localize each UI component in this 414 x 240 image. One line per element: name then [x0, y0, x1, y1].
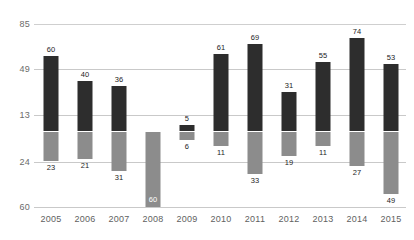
bar-negative-2006[interactable] [78, 132, 93, 159]
bar-negative-2010[interactable] [214, 132, 229, 146]
bar-group-2013: 55 11 2013 [306, 0, 340, 240]
bar-negative-2005[interactable] [44, 132, 59, 161]
bar-group-2011: 69 33 2011 [238, 0, 272, 240]
bar-group-2012: 31 19 2012 [272, 0, 306, 240]
bar-negative-2007[interactable] [112, 132, 127, 171]
bar-positive-2010[interactable] [214, 54, 229, 131]
bar-label-positive-2015: 53 [387, 53, 396, 62]
bar-positive-2009[interactable] [180, 125, 195, 131]
plot-area: 60 23 2005 40 21 2006 36 31 2007 60 2008 [34, 0, 406, 240]
bar-label-positive-2007: 36 [115, 75, 124, 84]
y-axis: 85 49 13 24 60 [0, 0, 30, 240]
bar-group-2014: 74 27 2014 [340, 0, 374, 240]
bar-label-positive-2011: 69 [251, 33, 260, 42]
bar-label-negative-2006: 21 [81, 161, 90, 170]
bar-label-positive-2005: 60 [47, 45, 56, 54]
bar-positive-2012[interactable] [282, 92, 297, 131]
bar-label-positive-2009: 5 [185, 114, 189, 123]
bar-positive-2014[interactable] [350, 38, 365, 131]
bar-label-negative-2015: 49 [387, 196, 396, 205]
bar-negative-2013[interactable] [316, 132, 331, 146]
y-tick-label-13: 13 [4, 110, 30, 120]
x-tick-label-2006: 2006 [74, 214, 95, 224]
bar-group-2015: 53 49 2015 [374, 0, 408, 240]
bar-label-negative-2007: 31 [115, 173, 124, 182]
bar-label-positive-2010: 61 [217, 43, 226, 52]
bar-chart: 85 49 13 24 60 60 23 2005 40 21 2006 [0, 0, 414, 240]
bar-label-positive-2013: 55 [319, 51, 328, 60]
bar-label-negative-2012: 19 [285, 158, 294, 167]
bar-label-positive-2014: 74 [353, 27, 362, 36]
bar-group-2005: 60 23 2005 [34, 0, 68, 240]
bar-negative-2014[interactable] [350, 132, 365, 166]
bar-label-negative-2013: 11 [319, 148, 327, 157]
bar-negative-2011[interactable] [248, 132, 263, 174]
bar-positive-2006[interactable] [78, 81, 93, 131]
x-tick-label-2009: 2009 [176, 214, 197, 224]
bar-label-positive-2012: 31 [285, 81, 294, 90]
y-tick-label-85: 85 [4, 19, 30, 29]
y-tick-label-neg24: 24 [4, 157, 30, 167]
bar-group-2009: 5 6 2009 [170, 0, 204, 240]
x-tick-label-2013: 2013 [312, 214, 333, 224]
x-tick-label-2005: 2005 [40, 214, 61, 224]
bar-label-negative-2005: 23 [47, 163, 56, 172]
bar-label-negative-2014: 27 [353, 168, 362, 177]
bar-group-2006: 40 21 2006 [68, 0, 102, 240]
y-tick-label-neg60: 60 [4, 202, 30, 212]
x-tick-label-2014: 2014 [346, 214, 367, 224]
bar-positive-2005[interactable] [44, 56, 59, 131]
bar-label-negative-2011: 33 [251, 176, 260, 185]
bar-group-2008: 60 2008 [136, 0, 170, 240]
bar-group-2007: 36 31 2007 [102, 0, 136, 240]
bar-positive-2015[interactable] [384, 64, 399, 131]
x-tick-label-2012: 2012 [278, 214, 299, 224]
bar-positive-2011[interactable] [248, 44, 263, 131]
bar-group-2010: 61 11 2010 [204, 0, 238, 240]
x-tick-label-2010: 2010 [210, 214, 231, 224]
bar-negative-2015[interactable] [384, 132, 399, 194]
x-tick-label-2011: 2011 [245, 214, 266, 224]
bar-label-negative-2010: 11 [217, 148, 225, 157]
bar-negative-2009[interactable] [180, 132, 195, 140]
bar-label-positive-2006: 40 [81, 70, 90, 79]
bar-label-negative-2008: 60 [149, 195, 158, 204]
y-tick-label-49: 49 [4, 64, 30, 74]
x-tick-label-2008: 2008 [142, 214, 163, 224]
x-tick-label-2015: 2015 [380, 214, 401, 224]
bar-label-negative-2009: 6 [185, 142, 189, 151]
bar-positive-2007[interactable] [112, 86, 127, 131]
x-tick-label-2007: 2007 [108, 214, 129, 224]
bar-negative-2012[interactable] [282, 132, 297, 156]
bar-positive-2013[interactable] [316, 62, 331, 131]
